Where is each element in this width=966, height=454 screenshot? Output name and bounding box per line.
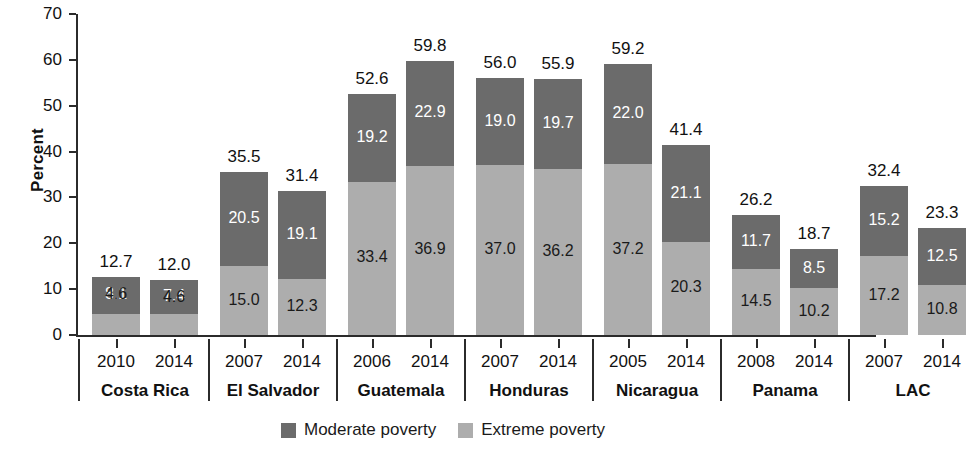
x-axis-country-label: Costa Rica	[92, 381, 198, 401]
x-axis-tick-mark	[430, 339, 432, 348]
stacked-bar: 12.510.823.3	[918, 228, 966, 335]
bar-segment-value-moderate: 20.5	[228, 210, 259, 226]
bar-segment-value-extreme: 14.5	[740, 293, 771, 309]
x-axis-tick-mark	[686, 339, 688, 348]
x-axis-tick-mark	[302, 339, 304, 348]
x-axis-country-label: LAC	[860, 381, 966, 401]
bar-segment-value-moderate: 19.1	[286, 226, 317, 242]
bar-total-label: 12.7	[99, 252, 132, 272]
stacked-bar: 21.120.341.4	[662, 145, 710, 335]
y-axis-tick-label: 20	[14, 233, 62, 253]
bar-segment-moderate-poverty: 22.0	[604, 64, 652, 165]
x-axis-year-label: 2014	[534, 352, 582, 372]
legend-label-moderate: Moderate poverty	[304, 420, 436, 440]
legend-swatch-moderate-icon	[281, 423, 296, 438]
bar-segment-value-moderate: 8.5	[803, 260, 825, 276]
bar-total-label: 52.6	[355, 69, 388, 89]
y-axis-tick-label: 0	[14, 325, 62, 345]
bar-segment-value-moderate: 21.1	[670, 185, 701, 201]
bar-segment-value-moderate: 22.9	[414, 104, 445, 120]
x-axis-tick-mark	[942, 339, 944, 348]
y-axis-tick-label: 70	[14, 4, 62, 24]
bar-segment-value-extreme: 4.6	[105, 286, 127, 302]
x-axis-year-label: 2007	[476, 352, 524, 372]
x-axis-year-label: 2014	[662, 352, 710, 372]
stacked-bar: 20.515.035.5	[220, 172, 268, 335]
bar-segment-value-extreme: 10.8	[926, 301, 957, 317]
group-separator	[336, 339, 338, 401]
legend-label-extreme: Extreme poverty	[481, 420, 605, 440]
bar-total-label: 32.4	[867, 161, 900, 181]
y-axis-tick-mark	[69, 105, 76, 107]
legend-item-moderate-poverty: Moderate poverty	[281, 420, 436, 440]
x-axis-tick-mark	[558, 339, 560, 348]
y-axis-tick-mark	[69, 288, 76, 290]
x-axis-year-label: 2008	[732, 352, 780, 372]
stacked-bar: 11.714.526.2	[732, 215, 780, 335]
bar-segment-moderate-poverty: 19.1	[278, 191, 326, 279]
bar-segment-value-extreme: 36.2	[542, 243, 573, 259]
stacked-bar: 7.44.612.0	[150, 280, 198, 335]
x-axis-country-label: Honduras	[476, 381, 582, 401]
y-axis-tick-label: 40	[14, 142, 62, 162]
y-axis-tick-mark	[69, 334, 76, 336]
bar-total-label: 41.4	[669, 120, 702, 140]
x-axis-year-label: 2007	[220, 352, 268, 372]
group-separator	[848, 339, 850, 401]
bar-segment-value-moderate: 15.2	[868, 212, 899, 228]
bar-segment-moderate-poverty: 22.9	[406, 61, 454, 166]
bar-segment-extreme-poverty: 17.2	[860, 256, 908, 335]
bar-segment-moderate-poverty: 8.5	[790, 249, 838, 288]
bar-segment-value-extreme: 17.2	[868, 287, 899, 303]
x-axis-tick-mark	[814, 339, 816, 348]
x-axis-tick-mark	[884, 339, 886, 348]
bar-total-label: 35.5	[227, 147, 260, 167]
legend-item-extreme-poverty: Extreme poverty	[458, 420, 605, 440]
group-separator	[208, 339, 210, 401]
bar-total-label: 59.2	[611, 39, 644, 59]
group-separator	[720, 339, 722, 401]
bar-segment-extreme-poverty: 10.2	[790, 288, 838, 335]
x-axis-country-label: Nicaragua	[604, 381, 710, 401]
group-separator	[78, 339, 80, 401]
bar-segment-extreme-poverty: 37.2	[604, 164, 652, 335]
bar-segment-extreme-poverty: 4.6	[92, 314, 140, 335]
bar-segment-value-extreme: 15.0	[228, 292, 259, 308]
y-axis-tick-mark	[69, 151, 76, 153]
bar-total-label: 31.4	[285, 166, 318, 186]
y-axis-tick-mark	[69, 13, 76, 15]
bar-total-label: 23.3	[925, 203, 958, 223]
bar-total-label: 56.0	[483, 53, 516, 73]
y-axis-tick-mark	[69, 59, 76, 61]
stacked-bar: 8.510.218.7	[790, 249, 838, 335]
x-axis-year-label: 2005	[604, 352, 652, 372]
stacked-bar: 15.217.232.4	[860, 186, 908, 335]
bar-segment-moderate-poverty: 19.0	[476, 78, 524, 165]
bar-segment-moderate-poverty: 21.1	[662, 145, 710, 242]
x-axis-year-label: 2014	[918, 352, 966, 372]
y-axis-tick-mark	[69, 242, 76, 244]
y-axis-tick-label: 10	[14, 279, 62, 299]
bar-segment-value-moderate: 22.0	[612, 105, 643, 121]
bar-segment-value-extreme: 20.3	[670, 279, 701, 295]
plot-area: 010203040506070 8.14.612.77.44.612.020.5…	[76, 14, 876, 337]
bar-segment-value-extreme: 10.2	[798, 303, 829, 319]
x-axis-country-label: El Salvador	[220, 381, 326, 401]
x-axis-tick-mark	[116, 339, 118, 348]
group-separator	[592, 339, 594, 401]
stacked-bar: 8.14.612.7	[92, 277, 140, 335]
bar-segment-value-extreme: 4.6	[163, 289, 185, 305]
bar-segment-moderate-poverty: 19.7	[534, 79, 582, 169]
bar-segment-extreme-poverty: 20.3	[662, 242, 710, 335]
bar-total-label: 59.8	[413, 36, 446, 56]
stacked-bar: 19.112.331.4	[278, 191, 326, 335]
x-axis-tick-mark	[174, 339, 176, 348]
stacked-bar: 19.736.255.9	[534, 79, 582, 335]
bar-segment-extreme-poverty: 37.0	[476, 165, 524, 335]
bar-segment-value-moderate: 11.7	[741, 233, 771, 249]
bar-segment-extreme-poverty: 36.2	[534, 169, 582, 335]
y-axis-tick-label: 60	[14, 50, 62, 70]
x-axis-tick-mark	[244, 339, 246, 348]
x-axis-country-label: Panama	[732, 381, 838, 401]
